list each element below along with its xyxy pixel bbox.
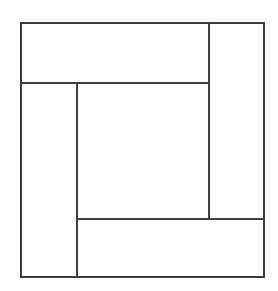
- region-bottom-strip[interactable]: [77, 219, 264, 277]
- diagram-canvas: Pinwheel Log Cabin Block Square block su…: [0, 0, 278, 291]
- region-right-strip[interactable]: [209, 23, 264, 219]
- pinwheel-block-diagram: [0, 0, 278, 291]
- region-center-square[interactable]: [77, 83, 209, 219]
- region-left-strip[interactable]: [21, 83, 77, 277]
- region-top-strip[interactable]: [21, 23, 209, 83]
- region-group: [21, 23, 264, 277]
